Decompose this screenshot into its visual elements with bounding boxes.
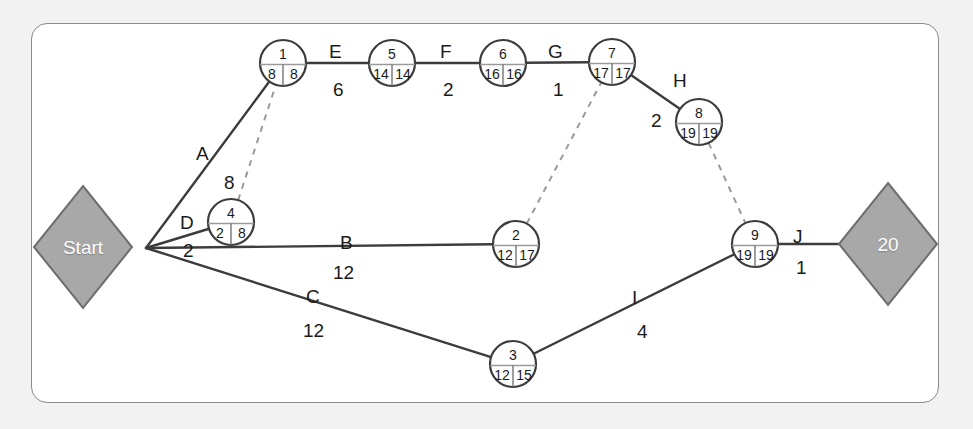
latest-time-n3: 15 xyxy=(516,368,532,382)
activity-label-I: I xyxy=(632,288,637,307)
event-number-n5: 5 xyxy=(388,47,396,61)
earliest-time-n7: 17 xyxy=(593,66,609,80)
activity-label-J: J xyxy=(793,227,803,246)
event-number-n6: 6 xyxy=(499,47,507,61)
earliest-time-n5: 14 xyxy=(373,67,389,81)
earliest-time-n4: 2 xyxy=(216,226,224,240)
event-number-n8: 8 xyxy=(695,106,703,120)
activity-label-A: A xyxy=(196,144,209,163)
latest-time-n7: 17 xyxy=(615,66,631,80)
event-number-n2: 2 xyxy=(512,228,520,242)
event-number-n7: 7 xyxy=(608,46,616,60)
latest-time-n1: 8 xyxy=(290,67,298,81)
activity-label-F: F xyxy=(440,42,452,61)
activity-duration-D: 2 xyxy=(183,241,194,260)
dummy-edge-d3 xyxy=(709,143,746,223)
diagram-canvas xyxy=(0,0,973,429)
activity-edge-G xyxy=(526,62,589,63)
activity-duration-G: 1 xyxy=(553,80,564,99)
activity-duration-I: 4 xyxy=(637,322,648,341)
milestone-label-start: Start xyxy=(63,238,103,257)
activity-edge-D xyxy=(146,229,209,248)
activity-label-G: G xyxy=(548,42,563,61)
dummy-edge-d1 xyxy=(238,85,276,200)
activity-duration-J: 1 xyxy=(796,258,807,277)
activity-edge-B xyxy=(146,244,493,248)
activity-duration-B: 12 xyxy=(333,263,354,282)
milestone-label-finish: 20 xyxy=(877,235,898,254)
latest-time-n8: 19 xyxy=(702,126,718,140)
dummy-edge-d2 xyxy=(527,82,602,223)
earliest-time-n8: 19 xyxy=(680,126,696,140)
activity-label-D: D xyxy=(180,213,194,232)
event-number-n1: 1 xyxy=(279,47,287,61)
activity-label-H: H xyxy=(673,71,687,90)
dummy-edges-layer xyxy=(238,82,745,223)
activity-duration-C: 12 xyxy=(303,321,324,340)
latest-time-n5: 14 xyxy=(395,67,411,81)
event-number-n3: 3 xyxy=(509,348,517,362)
activity-duration-H: 2 xyxy=(651,111,662,130)
activity-label-C: C xyxy=(306,287,320,306)
event-number-n9: 9 xyxy=(751,228,759,242)
activity-duration-E: 6 xyxy=(333,80,344,99)
activity-label-E: E xyxy=(329,42,342,61)
earliest-time-n3: 12 xyxy=(494,368,510,382)
activity-label-B: B xyxy=(340,233,353,252)
event-number-n4: 4 xyxy=(227,206,235,220)
earliest-time-n6: 16 xyxy=(484,67,500,81)
latest-time-n9: 19 xyxy=(758,248,774,262)
earliest-time-n9: 19 xyxy=(736,248,752,262)
latest-time-n6: 16 xyxy=(506,67,522,81)
network-diagram-page: Start20188514146161671717819194282121791… xyxy=(0,0,973,429)
earliest-time-n2: 12 xyxy=(497,248,513,262)
earliest-time-n1: 8 xyxy=(268,67,276,81)
latest-time-n4: 8 xyxy=(238,226,246,240)
activity-duration-A: 8 xyxy=(224,173,235,192)
latest-time-n2: 17 xyxy=(519,248,535,262)
activity-duration-F: 2 xyxy=(443,80,454,99)
nodes-layer xyxy=(208,39,778,387)
